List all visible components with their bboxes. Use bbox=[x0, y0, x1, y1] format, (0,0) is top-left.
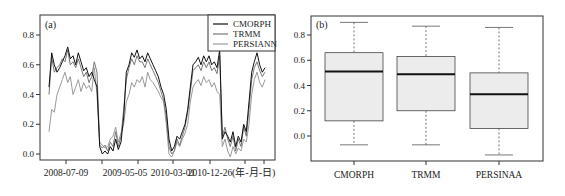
y-tick-label: 0.0 bbox=[294, 131, 306, 141]
legend-label-cmorph: CMORPH bbox=[233, 19, 272, 29]
panel-b-y-axis: 0.00.20.40.60.8 bbox=[294, 30, 311, 141]
x-tick-label: PERSINAA bbox=[476, 170, 523, 180]
series-line-trmm bbox=[49, 50, 265, 154]
y-tick-label: 0.2 bbox=[23, 119, 34, 129]
x-tick-label: CMORPH bbox=[334, 170, 374, 180]
y-tick-label: 0.8 bbox=[23, 30, 35, 40]
panel-a-y-axis: 0.00.20.40.60.8 bbox=[23, 30, 40, 159]
panel-a-x-unit: (年-月-日) bbox=[232, 166, 275, 179]
series-line-persiann bbox=[49, 68, 265, 157]
legend: CMORPH TRMM PERSIANN bbox=[208, 15, 278, 51]
y-tick-label: 0.4 bbox=[23, 90, 35, 100]
box-cmorph bbox=[325, 22, 383, 144]
panel-b-boxes bbox=[325, 22, 528, 155]
panel-b-x-axis: CMORPHTRMMPERSINAA bbox=[334, 161, 522, 180]
panel-a-series bbox=[49, 47, 265, 157]
x-tick-label: 2008-07-09 bbox=[44, 168, 89, 178]
x-tick-label: TRMM bbox=[411, 170, 441, 180]
panel-b: (b) 0.00.20.40.60.8 CMORPHTRMMPERSINAA bbox=[294, 16, 543, 180]
box-persinaa bbox=[470, 27, 528, 155]
x-tick-label: 2010-12-26 bbox=[188, 168, 233, 178]
y-tick-label: 0.6 bbox=[294, 55, 306, 65]
panel-a-x-axis: 2008-07-092009-05-052010-03-012010-12-26 bbox=[44, 160, 264, 178]
x-tick-label: 2009-05-05 bbox=[103, 168, 148, 178]
figure: (a) 0.00.20.40.60.8 2008-07-092009-05-05… bbox=[0, 0, 565, 196]
y-tick-label: 0.8 bbox=[294, 30, 306, 40]
panel-a: (a) 0.00.20.40.60.8 2008-07-092009-05-05… bbox=[23, 15, 278, 179]
y-tick-label: 0.4 bbox=[294, 81, 306, 91]
panel-b-label: (b) bbox=[316, 19, 328, 31]
y-tick-label: 0.0 bbox=[23, 149, 35, 159]
panel-a-label: (a) bbox=[45, 19, 56, 31]
legend-label-persiann: PERSIANN bbox=[233, 39, 278, 49]
y-tick-label: 0.6 bbox=[23, 60, 35, 70]
legend-label-trmm: TRMM bbox=[233, 29, 261, 39]
box-trmm bbox=[397, 26, 455, 145]
y-tick-label: 0.2 bbox=[294, 106, 305, 116]
